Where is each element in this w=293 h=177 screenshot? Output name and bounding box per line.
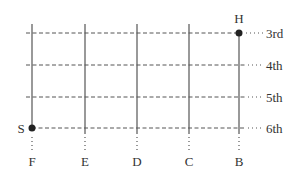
column-label-d: D xyxy=(132,154,141,169)
point-label-h: H xyxy=(234,11,243,26)
column-label-b: B xyxy=(235,154,244,169)
vertical-lines xyxy=(32,24,239,134)
point-h xyxy=(236,30,243,37)
column-label-e: E xyxy=(81,154,89,169)
points: H S xyxy=(17,11,243,136)
row-leaders xyxy=(246,33,264,128)
row-labels: 3rd 4th 5th 6th xyxy=(266,26,284,136)
column-label-c: C xyxy=(185,154,194,169)
grid-diagram: 3rd 4th 5th 6th F E D C B H S xyxy=(0,0,293,177)
column-label-f: F xyxy=(28,154,35,169)
column-labels: F E D C B xyxy=(28,154,243,169)
point-label-s: S xyxy=(17,121,24,136)
row-label-3rd: 3rd xyxy=(266,26,284,41)
row-label-6th: 6th xyxy=(266,121,283,136)
column-leaders xyxy=(32,137,239,150)
row-label-4th: 4th xyxy=(266,58,283,73)
row-label-5th: 5th xyxy=(266,90,283,105)
point-s xyxy=(29,125,36,132)
horizontal-lines xyxy=(26,33,245,128)
